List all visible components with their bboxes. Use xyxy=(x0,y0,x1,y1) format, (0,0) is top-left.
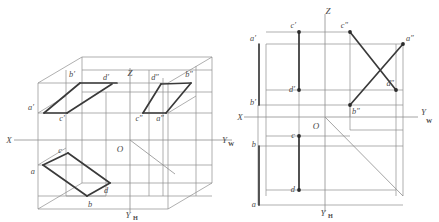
left-depth-topleft xyxy=(38,57,82,83)
left-label-d-dprime: d″ xyxy=(151,73,159,82)
left-edge-c-d xyxy=(68,153,110,183)
right-label-z: Z xyxy=(325,6,331,16)
left-label-x: X xyxy=(5,135,12,145)
dot-c-double-prime xyxy=(348,30,352,34)
left-point-labels: a′ b′ c′ d′ a″ b″ c″ d″ a b c d xyxy=(28,70,193,209)
left-label-a-prime: a′ xyxy=(28,103,34,112)
dot-d-double-prime xyxy=(394,88,398,92)
left-label-c: c xyxy=(58,146,62,155)
left-label-b-prime: b′ xyxy=(69,70,75,79)
left-edge-cpp-dpp xyxy=(143,84,161,113)
left-label-c-prime: c′ xyxy=(59,114,65,123)
right-label-yw-sub: W xyxy=(426,117,433,124)
left-edge-a-b xyxy=(43,165,87,196)
left-label-a-dprime: a″ xyxy=(156,114,164,123)
dot-c-prime xyxy=(297,30,301,34)
right-label-c-dprime: c″ xyxy=(341,21,349,30)
right-upper-construction xyxy=(258,32,403,196)
dot-a-double-prime xyxy=(401,42,405,46)
right-label-b: b xyxy=(252,140,256,149)
right-point-labels: a′ c′ c″ a″ d′ d″ b′ b″ c b d a xyxy=(250,21,414,209)
dot-d-point xyxy=(297,188,301,192)
left-w-projection-shape xyxy=(143,83,191,113)
right-label-d: d xyxy=(291,185,296,194)
right-45-miter-line xyxy=(325,117,403,196)
right-label-b-dprime: b″ xyxy=(352,107,360,116)
left-h-projection-shape xyxy=(43,153,110,196)
right-label-a-prime: a′ xyxy=(250,34,256,43)
left-axis-labels: X Z Y W Y H O xyxy=(5,68,235,221)
right-node-dots xyxy=(297,30,405,192)
left-label-d: d xyxy=(104,186,109,195)
left-label-yh: Y xyxy=(125,210,131,220)
right-label-x: X xyxy=(236,112,243,122)
left-label-b: b xyxy=(88,200,92,209)
right-label-yh: Y xyxy=(320,208,326,218)
left-label-yh-sub: H xyxy=(133,214,138,221)
dot-c-point xyxy=(297,134,301,138)
right-label-d-prime: d′ xyxy=(289,85,295,94)
left-label-z: Z xyxy=(127,68,133,78)
left-diagram-group: a′ b′ c′ d′ a″ b″ c″ d″ a b c d X Z Y W … xyxy=(5,57,235,221)
right-label-d-dprime: d″ xyxy=(386,79,394,88)
right-w-view-edges xyxy=(350,32,403,105)
right-label-b-prime: b′ xyxy=(250,98,256,107)
right-diagram-group: a′ c′ c″ a″ d′ d″ b′ b″ c b d a X Z Y W … xyxy=(236,6,433,219)
right-label-yw: Y xyxy=(421,107,427,117)
right-label-c-prime: c′ xyxy=(291,21,297,30)
dot-d-prime xyxy=(297,88,301,92)
right-label-c: c xyxy=(291,131,295,140)
left-box-depth-edges xyxy=(38,57,212,209)
left-construction-lines xyxy=(38,66,212,196)
left-label-d-prime: d′ xyxy=(103,73,109,82)
right-h-view-edges xyxy=(259,136,299,205)
left-label-b-dprime: b″ xyxy=(185,70,193,79)
right-label-a-dprime: a″ xyxy=(406,34,414,43)
left-label-a: a xyxy=(31,167,35,176)
left-label-c-dprime: c″ xyxy=(135,114,143,123)
right-lower-construction xyxy=(258,105,403,205)
right-edge-bpp-app xyxy=(350,44,403,105)
right-v-view-edges xyxy=(259,32,299,105)
right-label-yh-sub: H xyxy=(328,212,333,219)
left-label-yw-sub: W xyxy=(228,140,235,147)
left-edge-dpp-bpp xyxy=(161,83,191,84)
left-edge-app-bpp xyxy=(166,83,191,113)
figure-root: a′ b′ c′ d′ a″ b″ c″ d″ a b c d X Z Y W … xyxy=(0,0,439,222)
left-label-origin: O xyxy=(117,144,124,154)
figure-svg: a′ b′ c′ d′ a″ b″ c″ d″ a b c d X Z Y W … xyxy=(0,0,439,222)
right-label-origin: O xyxy=(313,121,320,131)
right-label-a: a xyxy=(252,200,256,209)
left-edge-a-c xyxy=(43,153,68,165)
